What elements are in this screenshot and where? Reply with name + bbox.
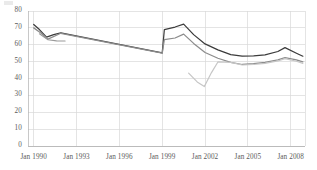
y-tick-label-80: 80 <box>0 7 22 14</box>
x-tick-label-jan-2002: Jan 2002 <box>182 154 228 161</box>
y-tick-label-60: 60 <box>0 41 22 48</box>
y-tick-label-20: 20 <box>0 108 22 115</box>
y-tick-label-0: 0 <box>0 142 22 149</box>
x-tick-label-jan-1996: Jan 1996 <box>96 154 142 161</box>
line-chart: 01020304050607080 Jan 1990Jan 1993Jan 19… <box>0 0 317 170</box>
series-line-series-light <box>189 59 303 87</box>
series-line-series-dark <box>34 24 303 56</box>
x-tick-label-jan-1990: Jan 1990 <box>11 154 57 161</box>
horizontal-gridlines <box>28 11 305 146</box>
x-tick-label-jan-1993: Jan 1993 <box>54 154 100 161</box>
x-tick-label-jan-2005: Jan 2005 <box>225 154 271 161</box>
x-tick-label-jan-1999: Jan 1999 <box>139 154 185 161</box>
y-tick-label-30: 30 <box>0 91 22 98</box>
y-tick-label-40: 40 <box>0 75 22 82</box>
series-line-series-gray <box>34 28 303 65</box>
y-tick-label-10: 10 <box>0 125 22 132</box>
y-tick-label-70: 70 <box>0 24 22 31</box>
x-tick-label-jan-2008: Jan 2008 <box>268 154 314 161</box>
chart-series-group <box>34 24 303 86</box>
chart-plot-area <box>0 0 317 170</box>
y-tick-label-50: 50 <box>0 58 22 65</box>
